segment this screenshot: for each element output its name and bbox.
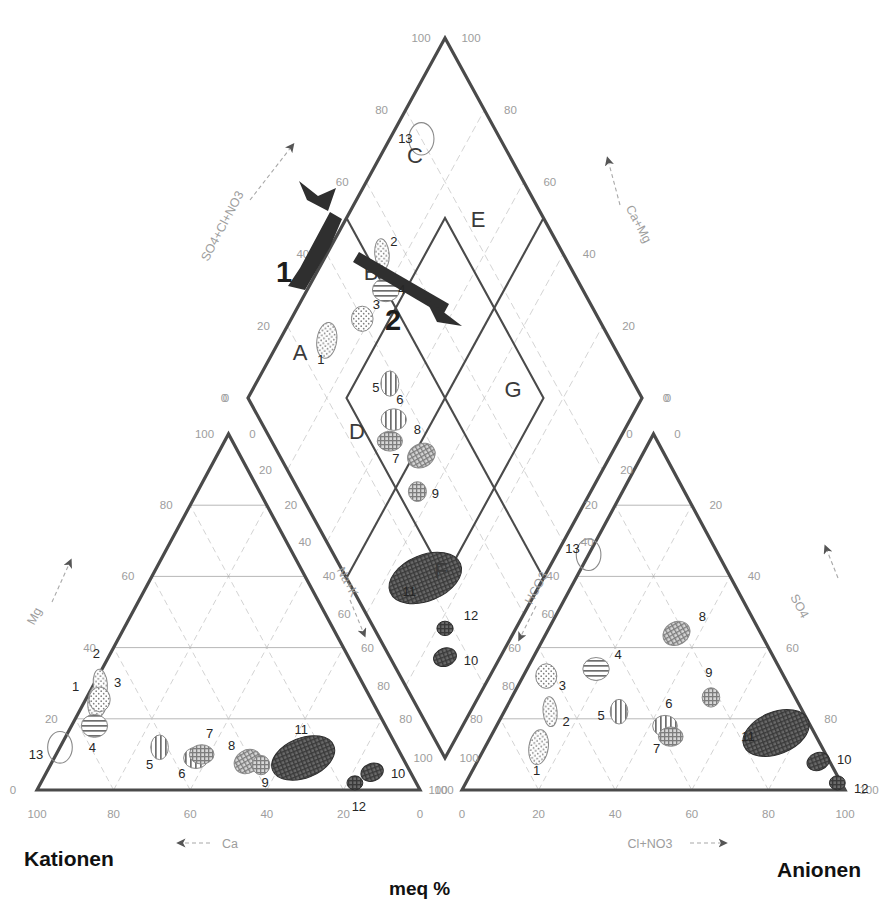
cation-blob-label-4: 4 [89,740,96,755]
cation-blob-label-3: 3 [114,675,121,690]
cation-blob-label-2: 2 [93,646,100,661]
cation-blob-label-13: 13 [29,747,43,762]
tick-anion-hco3-100: 100 [428,784,447,796]
anion-blob-5 [610,699,628,724]
diamond-blob-label-9: 9 [432,486,439,501]
tick-cation-ca-80: 80 [107,808,120,820]
diamond-blob-label-4: 4 [398,282,405,297]
tick-cation-mg-80: 80 [160,499,173,511]
diamond-blob-label-8: 8 [414,422,421,437]
anion-blob-label-13: 13 [565,541,579,556]
axis-arrow-camg [608,160,620,205]
diamond-blob-label-13: 13 [398,131,412,146]
piper-diagram-svg: 1008060402000204060801000204060801000204… [0,0,883,911]
tick-cation-ca-100: 100 [27,808,46,820]
trend-label-1: 1 [276,256,292,288]
tick-diamond-ll-60: 60 [338,608,351,620]
tick-diamond-left-60: 60 [336,176,349,188]
diamond-blob-7 [377,431,402,451]
tick-cation-mg-60: 60 [122,570,135,582]
axis-label-clno3: Cl+NO3 [628,837,673,851]
diamond-blob-label-7: 7 [392,451,399,466]
anion-blob-12 [829,776,845,790]
diamond-blob-label-6: 6 [396,392,403,407]
axis-arrow-so4 [826,548,838,578]
tick-anion-hco3-20: 20 [585,499,598,511]
cation-blob-9 [252,755,270,774]
tick-anion-so4-80: 80 [824,713,837,725]
cation-blob-5 [151,735,169,760]
anion-blob-4 [583,658,609,681]
group-number-labels: 1234567891011121312345678910111213123456… [29,131,869,814]
tick-cation-ca-60: 60 [184,808,197,820]
tick-diamond-left-100: 100 [411,32,430,44]
cation-blob-12 [347,776,363,790]
plot-outlines [37,38,845,790]
tick-diamond-left-80: 80 [375,104,388,116]
tick-labels: 1008060402000204060801000204060801000204… [10,32,879,820]
cation-blob-label-11: 11 [294,722,308,737]
anion-blob-label-6: 6 [665,696,672,711]
axis-label-ca: Ca [222,837,238,851]
tick-diamond-right-100: 100 [461,32,480,44]
anion-blob-2 [542,696,559,727]
anion-blob-label-4: 4 [614,647,621,662]
cation-blob-label-10: 10 [391,766,405,781]
tick-cation-ca-20: 20 [337,808,350,820]
tick-cation-nak-60: 60 [361,642,374,654]
tick-anion-cl-80: 80 [762,808,775,820]
tick-diamond-lr-0: 0 [663,392,669,404]
anion-blob-label-2: 2 [562,714,569,729]
diamond-blob-label-11: 11 [403,584,417,599]
tick-anion-cl-40: 40 [609,808,622,820]
tick-diamond-lr-40: 40 [581,536,594,548]
tick-anion-cl-100: 100 [835,808,854,820]
axis-label-so4clno3: SO4+Cl+NO3 [198,189,247,264]
tick-cation-ca-0: 0 [417,808,423,820]
tick-cation-nak-20: 20 [284,499,297,511]
axis-label-nak-diamond: Na+K [334,565,362,600]
diamond-blob-label-12: 12 [464,608,478,623]
tick-anion-cl-20: 20 [532,808,545,820]
anion-blob-3 [536,664,557,689]
anion-blob-label-7: 7 [653,741,660,756]
tick-diamond-left-20: 20 [257,320,270,332]
anionen-label: Anionen [777,858,861,881]
tick-anion-cl-60: 60 [685,808,698,820]
tick-diamond-right-80: 80 [504,104,517,116]
tick-cation-nak-0: 0 [249,428,255,440]
piper-diagram-figure: 1008060402000204060801000204060801000204… [0,0,883,911]
diamond-blob-12 [437,621,453,635]
cation-blob-4 [81,714,107,737]
axis-arrow-so4clno3 [250,146,292,200]
anion-blob-7 [658,727,683,746]
cation-blob-label-1: 1 [72,679,79,694]
region-letter-G: G [504,377,521,402]
tick-diamond-ll-40: 40 [298,536,311,548]
diamond-blob-label-5: 5 [372,380,379,395]
anion-blob-label-11: 11 [741,729,755,744]
tick-diamond-lr-20: 20 [620,464,633,476]
kationen-label: Kationen [24,847,114,870]
diamond-blob-label-10: 10 [464,653,478,668]
tick-cation-ca-40: 40 [260,808,273,820]
tick-diamond-right-40: 40 [583,248,596,260]
region-letter-A: A [293,340,308,365]
region-letter-F: F [434,558,447,583]
anion-blob-9 [702,688,720,707]
anion-blob-8 [659,616,695,650]
trend-arrowhead-1 [299,181,336,211]
anion-blob-label-3: 3 [559,678,566,693]
tick-cation-mg-100: 100 [195,428,214,440]
tick-anion-hco3-60: 60 [508,642,521,654]
cation-blob-label-9: 9 [261,775,268,790]
anion-blob-label-1: 1 [533,763,540,778]
tick-anion-so4-60: 60 [786,642,799,654]
anion-blob-label-12: 12 [854,781,868,796]
cation-blob-label-7: 7 [206,726,213,741]
tick-cation-mg-20: 20 [45,713,58,725]
diamond-blob-3 [351,306,373,331]
diamond-blob-9 [408,482,426,502]
region-letter-E: E [471,207,486,232]
anion-blob-label-8: 8 [699,609,706,624]
